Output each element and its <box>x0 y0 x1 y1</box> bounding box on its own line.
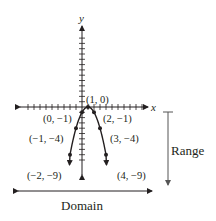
parabola-graph: x y (1, 0) (0, −1) (2, −1) (−1, −4) (3, … <box>0 0 216 221</box>
label-point-4: (4, −9) <box>117 170 146 182</box>
y-axis-label: y <box>78 12 84 24</box>
label-point-2: (2, −1) <box>103 113 132 125</box>
label-point-3: (3, −4) <box>110 133 139 145</box>
point-m2 <box>68 153 72 157</box>
label-point-1: (1, 0) <box>86 94 109 106</box>
range-annotation: Range <box>163 112 204 185</box>
point-0 <box>80 110 84 114</box>
point-2 <box>92 110 96 114</box>
label-point-m2: (−2, −9) <box>27 170 62 182</box>
range-label: Range <box>171 143 204 158</box>
domain-annotation: Domain <box>18 191 152 213</box>
data-points <box>68 105 108 157</box>
point-m1 <box>74 126 78 130</box>
domain-label: Domain <box>61 198 103 213</box>
label-point-m1: (−1, −4) <box>29 133 64 145</box>
x-axis-label: x <box>150 101 156 113</box>
point-4 <box>104 153 108 157</box>
label-point-0: (0, −1) <box>43 113 72 125</box>
parabola-curve <box>70 107 107 165</box>
point-1 <box>86 105 90 109</box>
y-axis: y <box>78 12 85 175</box>
point-3 <box>98 126 102 130</box>
